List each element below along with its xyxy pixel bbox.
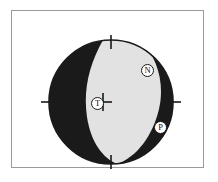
figure-frame: N T P bbox=[11, 10, 204, 168]
figure-root: N T P bbox=[0, 0, 218, 182]
beachball-diagram: N T P bbox=[41, 35, 181, 169]
null-axis-marker: N bbox=[141, 64, 154, 77]
tension-axis-marker: T bbox=[91, 97, 104, 110]
beachball-svg bbox=[41, 35, 181, 169]
pressure-axis-marker: P bbox=[154, 121, 167, 134]
